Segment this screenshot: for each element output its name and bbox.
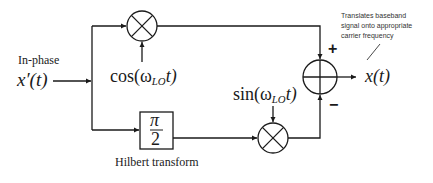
plus-sign: + (328, 40, 337, 58)
input-signal: x′(t) (17, 69, 48, 91)
cos-lo-tail: t) (166, 66, 177, 86)
annotation-pointer (367, 44, 380, 60)
top-mixer-icon (127, 11, 157, 41)
minus-sign: − (329, 96, 338, 114)
annotation-line-3: carrier frequency (341, 31, 412, 41)
bottom-mixer-icon (258, 123, 288, 153)
sin-lo-sub: LO (272, 93, 286, 105)
top-output-line (157, 26, 320, 59)
annotation-line-1: Translates baseband (341, 11, 412, 21)
output-signal: x(t) (365, 66, 390, 87)
hilbert-numerator: π (150, 110, 159, 131)
annotation-line-2: signal onto appropriate (341, 21, 412, 31)
annotation-text: Translates baseband signal onto appropri… (341, 11, 412, 41)
sin-lo-label: sin(ωLOt) (233, 84, 297, 105)
cos-lo-sub: LO (152, 75, 166, 87)
cos-lo-text: cos(ω (110, 66, 152, 86)
sin-lo-text: sin(ω (233, 84, 272, 104)
hilbert-caption: Hilbert transform (115, 155, 199, 170)
hilbert-denominator: 2 (151, 129, 160, 150)
cos-lo-label: cos(ωLOt) (110, 66, 177, 87)
summer-icon (303, 60, 337, 94)
input-label: In-phase (18, 53, 59, 68)
sin-lo-tail: t) (286, 84, 297, 104)
